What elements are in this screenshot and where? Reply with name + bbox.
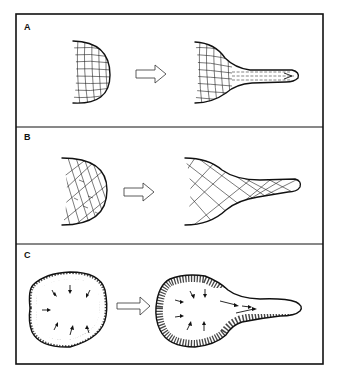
panel-b-before-shape <box>60 158 108 226</box>
panel-c-after-shape <box>156 275 306 347</box>
panel-c-before-shape <box>29 272 106 347</box>
panel-label-a: A <box>24 22 31 32</box>
figure-frame: A <box>0 0 339 379</box>
panel-b-after-shape <box>180 156 300 228</box>
arrow-right-icon <box>136 65 166 83</box>
panel-a-before-shape <box>70 38 112 106</box>
arrow-right-icon <box>117 297 150 315</box>
panel-b: B <box>24 132 300 228</box>
panel-c: C <box>24 250 306 347</box>
arrow-right-icon <box>124 183 154 201</box>
panel-a: A <box>24 22 298 106</box>
panel-a-after-shape <box>190 40 298 106</box>
inward-arrows <box>42 285 90 335</box>
panel-label-b: B <box>24 132 31 142</box>
panel-label-c: C <box>24 250 31 260</box>
